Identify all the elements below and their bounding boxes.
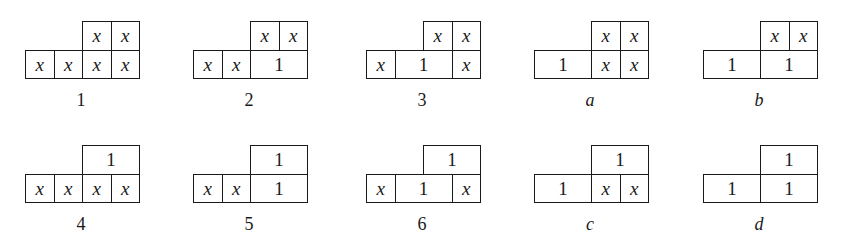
- cell-bottom-x: x: [193, 50, 223, 80]
- cell-bottom-x: x: [111, 50, 141, 80]
- cell-bottom-x: x: [54, 174, 84, 204]
- diagram-label: d: [729, 214, 789, 235]
- diagram-d: 111d: [703, 145, 818, 245]
- cell-top-one: 1: [760, 145, 818, 175]
- diagram-label: c: [560, 214, 620, 235]
- diagram-label: 6: [392, 214, 452, 235]
- cell-bottom-x: x: [620, 50, 650, 80]
- cell-bottom-one: 1: [534, 174, 592, 204]
- diagram-5: 1xx15: [193, 145, 308, 245]
- diagram-label: 1: [51, 90, 111, 111]
- cell-bottom-x: x: [54, 50, 84, 80]
- diagram-label: a: [560, 90, 620, 111]
- diagram-label: 2: [219, 90, 279, 111]
- diagram-b: xx11b: [703, 21, 818, 121]
- cell-bottom-x: x: [82, 174, 112, 204]
- cell-bottom-x: x: [222, 50, 252, 80]
- diagram-a: xx1xxa: [534, 21, 649, 121]
- cell-bottom-x: x: [366, 50, 396, 80]
- cell-bottom-one: 1: [250, 174, 308, 204]
- cell-bottom-x: x: [452, 50, 482, 80]
- cell-bottom-one: 1: [703, 174, 761, 204]
- cell-bottom-x: x: [222, 174, 252, 204]
- cell-top-one: 1: [591, 145, 649, 175]
- diagram-label: b: [729, 90, 789, 111]
- cell-top-x: x: [423, 21, 453, 51]
- cell-top-one: 1: [423, 145, 481, 175]
- cell-bottom-one: 1: [395, 174, 453, 204]
- cell-bottom-x: x: [591, 174, 621, 204]
- cell-bottom-one: 1: [534, 50, 592, 80]
- cell-bottom-one: 1: [395, 50, 453, 80]
- cell-top-x: x: [620, 21, 650, 51]
- cell-top-one: 1: [82, 145, 140, 175]
- cell-top-x: x: [760, 21, 790, 51]
- diagram-1: xxxxxx1: [25, 21, 140, 121]
- cell-bottom-x: x: [366, 174, 396, 204]
- cell-top-x: x: [452, 21, 482, 51]
- cell-top-x: x: [789, 21, 819, 51]
- cell-top-x: x: [82, 21, 112, 51]
- cell-bottom-x: x: [25, 174, 55, 204]
- cell-top-x: x: [250, 21, 280, 51]
- diagram-label: 3: [392, 90, 452, 111]
- cell-bottom-x: x: [82, 50, 112, 80]
- diagram-label: 5: [219, 214, 279, 235]
- cell-bottom-x: x: [620, 174, 650, 204]
- diagram-label: 4: [51, 214, 111, 235]
- diagram-4: 1xxxx4: [25, 145, 140, 245]
- cell-bottom-x: x: [452, 174, 482, 204]
- cell-bottom-one: 1: [760, 174, 818, 204]
- cell-top-one: 1: [250, 145, 308, 175]
- cell-top-x: x: [111, 21, 141, 51]
- cell-bottom-x: x: [25, 50, 55, 80]
- cell-bottom-one: 1: [703, 50, 761, 80]
- cell-bottom-x: x: [591, 50, 621, 80]
- cell-bottom-one: 1: [250, 50, 308, 80]
- diagram-c: 11xxc: [534, 145, 649, 245]
- diagram-2: xxxx12: [193, 21, 308, 121]
- cell-bottom-x: x: [193, 174, 223, 204]
- diagram-6: 1x1x6: [366, 145, 481, 245]
- cell-top-x: x: [591, 21, 621, 51]
- cell-top-x: x: [279, 21, 309, 51]
- diagram-3: xxx1x3: [366, 21, 481, 121]
- cell-bottom-x: x: [111, 174, 141, 204]
- cell-bottom-one: 1: [760, 50, 818, 80]
